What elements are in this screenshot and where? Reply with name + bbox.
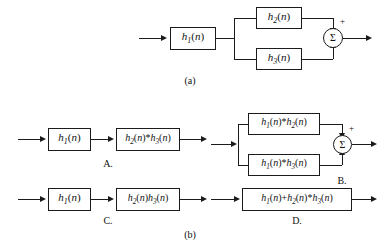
summer-opt-b-plus-sign: +: [349, 124, 354, 133]
upper-out-wire-a: [302, 18, 333, 19]
upper-branch-wire-a: [234, 18, 256, 19]
option-d-block[interactable]: h1(n)+h2(n)*h3(n): [242, 188, 352, 211]
block-h2-a-label: h2(n): [268, 11, 290, 25]
option-d-label: D.: [285, 216, 309, 226]
summer-opt-b[interactable]: Σ: [333, 135, 352, 154]
output-arrowhead-opt-a: [201, 136, 207, 142]
caption-b: (b): [160, 230, 220, 240]
output-arrowhead-opt-c: [201, 196, 207, 202]
lower-out-wire-a: [302, 59, 333, 60]
upper-branch-wire-opt-b: [238, 124, 248, 125]
option-c-block-2-label: h2(n)h3(n): [128, 193, 169, 206]
option-c-block-1-label: h1(n): [58, 192, 80, 206]
input-wire-opt-b: [211, 144, 232, 145]
input-wire-opt-d: [211, 199, 235, 200]
figure-container: h1(n) h2(n) h3(n) Σ + (a): [0, 0, 378, 246]
lower-out-wire-opt-b: [320, 165, 342, 166]
option-b-upper-block[interactable]: h1(n)*h2(n): [248, 113, 320, 135]
option-a-block-1[interactable]: h1(n): [48, 128, 91, 151]
summer-a-plus-sign: +: [340, 17, 345, 26]
lower-up-wire-opt-b: [342, 154, 343, 165]
mid-wire-opt-a: [91, 139, 109, 140]
option-c-label: C.: [96, 216, 120, 226]
lower-branch-wire-a: [234, 59, 256, 60]
output-wire-opt-c: [180, 199, 202, 200]
split-wire-a: [216, 38, 234, 39]
output-arrowhead-opt-b: [371, 141, 377, 147]
summer-a-symbol: Σ: [330, 33, 336, 43]
option-d-block-label: h1(n)+h2(n)*h3(n): [261, 193, 332, 206]
option-b-upper-block-label: h1(n)*h2(n): [261, 117, 307, 130]
lower-branch-wire-opt-b: [238, 165, 248, 166]
caption-a: (a): [160, 76, 220, 86]
option-b-lower-block[interactable]: h1(n)*h3(n): [248, 154, 320, 176]
output-arrowhead-a: [366, 35, 372, 41]
option-a-label: A.: [96, 159, 120, 169]
option-a-block-2[interactable]: h2(n)*h3(n): [116, 128, 180, 151]
input-arrowhead-opt-c: [40, 196, 46, 202]
summer-a[interactable]: Σ: [323, 28, 343, 48]
output-arrowhead-opt-d: [371, 196, 377, 202]
summer-opt-b-symbol: Σ: [340, 140, 346, 150]
mid-arrowhead-opt-c: [108, 196, 114, 202]
output-wire-a: [343, 38, 367, 39]
output-wire-opt-d: [352, 199, 372, 200]
lower-up-wire-a: [333, 47, 334, 59]
split-bus-a: [234, 18, 235, 59]
block-h3-a-label: h3(n): [268, 52, 290, 66]
option-c-block-1[interactable]: h1(n): [48, 188, 91, 211]
option-a-block-2-label: h2(n)*h3(n): [125, 133, 171, 146]
input-arrowhead-a: [161, 35, 167, 41]
mid-wire-opt-c: [91, 199, 109, 200]
block-h1-a[interactable]: h1(n): [170, 27, 216, 50]
input-arrowhead-opt-d: [234, 196, 240, 202]
input-arrowhead-opt-b: [231, 141, 237, 147]
option-a-block-1-label: h1(n): [58, 132, 80, 146]
input-wire-a: [139, 38, 162, 39]
input-arrowhead-opt-a: [40, 136, 46, 142]
input-wire-opt-a: [18, 139, 41, 140]
mid-arrowhead-opt-a: [108, 136, 114, 142]
split-bus-opt-b: [238, 124, 239, 165]
input-wire-opt-c: [18, 199, 41, 200]
upper-out-wire-opt-b: [320, 124, 342, 125]
block-h3-a[interactable]: h3(n): [256, 48, 302, 70]
option-c-block-2[interactable]: h2(n)h3(n): [116, 188, 180, 211]
option-b-lower-block-label: h1(n)*h3(n): [261, 158, 307, 171]
block-h2-a[interactable]: h2(n): [256, 7, 302, 29]
option-b-label: B.: [330, 176, 354, 186]
block-h1-a-label: h1(n): [182, 31, 204, 45]
output-wire-opt-a: [180, 139, 202, 140]
output-wire-opt-b: [352, 144, 372, 145]
